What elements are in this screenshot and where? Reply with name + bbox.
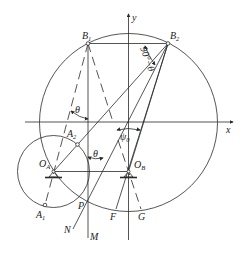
point-b1 [86,42,90,46]
point-a1 [43,203,47,207]
point-a2 [76,143,80,147]
label-a2: A2 [66,128,77,140]
label-g: G [138,211,145,222]
dashed-b1-a1 [45,44,88,206]
label-n: N [63,224,72,235]
label-theta-lower: θ [93,148,98,159]
label-b2: B2 [170,30,180,42]
dashed-b1-ob [88,44,113,123]
label-a1: A1 [35,209,45,221]
label-p: P [77,200,84,211]
label-f: F [109,211,117,222]
dashed-ob-g [118,140,141,209]
label-y-axis: y [131,12,137,23]
mechanism-diagram: B1 B2 y x θ θ ψ0 90°−θ A2 A1 OA OB P F G… [0,0,250,259]
label-m: M [89,231,99,242]
label-b1: B1 [82,30,91,42]
label-x-axis: x [225,124,231,135]
label-ob: OB [134,159,145,171]
label-90-minus-theta: 90°−θ [138,45,157,73]
label-oa: OA [39,158,50,170]
point-b2 [166,42,170,46]
label-theta-upper: θ [75,104,80,115]
